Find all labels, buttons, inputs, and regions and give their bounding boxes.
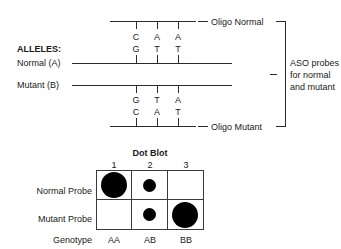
oligo-normal-line xyxy=(110,21,196,22)
oligo-normal-tick-3 xyxy=(178,21,179,29)
dot-blot-cell-normal-1 xyxy=(97,171,132,200)
mutant-allele-tick-1 xyxy=(136,85,137,93)
mutant-allele-tick-3 xyxy=(178,85,179,93)
oligo-mutant-tick-3 xyxy=(178,118,179,126)
dot-normal-probe-lane-1 xyxy=(101,172,127,198)
normal-allele-tick-2 xyxy=(157,55,158,63)
normal-allele-line xyxy=(72,63,232,64)
dot-blot-genotype-3: BB xyxy=(168,235,204,245)
aso-probes-label-line3: and mutant xyxy=(290,82,335,92)
normal-allele-tick-3 xyxy=(178,55,179,63)
oligo-normal-label: Oligo Normal xyxy=(211,17,264,27)
oligo-mutant-tick-1 xyxy=(136,118,137,126)
dot-blot-column-number-3: 3 xyxy=(168,160,204,170)
dot-mutant-probe-lane-2 xyxy=(143,208,156,221)
dot-blot-genotype-2: AB xyxy=(132,235,168,245)
oligo-mutant-label: Oligo Mutant xyxy=(211,122,262,132)
normal-allele-base-1: G xyxy=(131,45,141,54)
dot-normal-probe-lane-2 xyxy=(143,179,156,192)
dot-blot-title: Dot Blot xyxy=(96,148,204,158)
oligo-mutant-base-2: A xyxy=(152,108,162,117)
alleles-heading: ALLELES: xyxy=(17,44,61,54)
normal-allele-base-2: T xyxy=(152,45,162,54)
mutant-allele-tick-2 xyxy=(157,85,158,93)
aso-probes-label-line2: for normal xyxy=(290,70,331,80)
oligo-mutant-base-3: T xyxy=(173,108,183,117)
dot-blot-genotype-1: AA xyxy=(96,235,132,245)
aso-probes-bracket-nub xyxy=(270,74,277,75)
oligo-mutant-tick-2 xyxy=(157,118,158,126)
mutant-allele-line xyxy=(72,85,232,86)
dot-blot-grid xyxy=(96,170,204,230)
dot-blot-row-label-normal-probe: Normal Probe xyxy=(6,186,92,196)
dot-blot-column-number-1: 1 xyxy=(96,160,132,170)
dot-blot-cell-mutant-1 xyxy=(97,200,132,229)
mutant-allele-label: Mutant (B) xyxy=(17,80,59,90)
mutant-allele-base-1: G xyxy=(131,96,141,105)
dot-mutant-probe-lane-3 xyxy=(172,202,198,228)
mutant-allele-base-3: A xyxy=(173,96,183,105)
normal-allele-tick-1 xyxy=(136,55,137,63)
dot-blot-genotype-label: Genotype xyxy=(6,235,92,245)
oligo-normal-tick-1 xyxy=(136,21,137,29)
oligo-normal-base-2: A xyxy=(152,33,162,42)
oligo-normal-leader xyxy=(198,21,208,22)
oligo-normal-tick-2 xyxy=(157,21,158,29)
oligo-mutant-base-1: C xyxy=(131,108,141,117)
dot-blot-column-number-2: 2 xyxy=(132,160,168,170)
oligo-normal-base-1: C xyxy=(131,33,141,42)
normal-allele-base-3: T xyxy=(173,45,183,54)
aso-probe-diagram: Oligo Normal C A A G T T ALLELES: Normal… xyxy=(0,0,341,249)
dot-blot-cell-normal-3 xyxy=(168,171,203,200)
dot-blot-cell-mutant-2 xyxy=(132,200,167,229)
normal-allele-label: Normal (A) xyxy=(17,58,61,68)
oligo-mutant-leader xyxy=(198,126,208,127)
dot-blot-cell-mutant-3 xyxy=(168,200,203,229)
oligo-mutant-line xyxy=(110,126,196,127)
aso-probes-bracket xyxy=(276,21,286,127)
mutant-allele-base-2: T xyxy=(152,96,162,105)
dot-blot-cell-normal-2 xyxy=(132,171,167,200)
aso-probes-label-line1: ASO probes xyxy=(290,58,339,68)
dot-blot-row-label-mutant-probe: Mutant Probe xyxy=(6,214,92,224)
oligo-normal-base-3: A xyxy=(173,33,183,42)
